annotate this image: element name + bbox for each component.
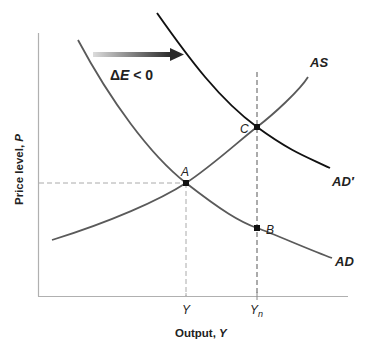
y-axis-title: Price level, P xyxy=(13,134,25,205)
arrow-shaft xyxy=(93,52,171,57)
point-c-marker xyxy=(254,124,260,130)
axes xyxy=(38,33,348,297)
point-c-label: C xyxy=(240,122,249,136)
arrow-head-icon xyxy=(170,48,184,61)
ad-label: AD xyxy=(334,254,354,269)
x-axis-title: Output, Y xyxy=(175,327,228,339)
ad-prime-curve xyxy=(157,13,330,168)
point-b-label: B xyxy=(266,223,274,237)
shift-label: ΔE < 0 xyxy=(110,67,153,83)
point-a-marker xyxy=(183,180,189,186)
ad-as-diagram: ΔE < 0 A B C AS AD′ AD Y Yn Output, Y Pr… xyxy=(0,0,368,350)
tick-label-yn: Yn xyxy=(250,303,263,319)
as-label: AS xyxy=(309,55,328,70)
ad-prime-label: AD′ xyxy=(331,174,355,189)
point-b-marker xyxy=(254,225,260,231)
guide-lines xyxy=(39,72,257,296)
as-curve xyxy=(52,77,308,240)
point-a-label: A xyxy=(180,165,189,179)
tick-label-y: Y xyxy=(182,303,191,317)
shift-arrow xyxy=(93,48,184,61)
